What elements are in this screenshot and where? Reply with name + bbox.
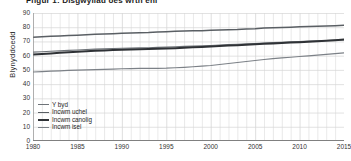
y-tick-label: 30 — [14, 95, 30, 102]
y-tick-label: 70 — [14, 38, 30, 45]
legend-color-swatch — [38, 104, 49, 105]
legend-item-label: Y byd — [52, 102, 68, 108]
x-tick-label: 2005 — [248, 143, 262, 150]
x-tick-label: 1985 — [70, 143, 84, 150]
legend-color-swatch — [38, 127, 49, 128]
x-tick-label: 1980 — [26, 143, 40, 150]
y-tick-label: 20 — [14, 109, 30, 116]
y-tick-label: 90 — [14, 10, 30, 17]
x-tick-label: 2000 — [203, 143, 217, 150]
y-axis-ticks: 0102030405060708090 — [12, 0, 30, 161]
series-line — [33, 25, 344, 37]
y-tick-label: 80 — [14, 24, 30, 31]
y-tick-label: 10 — [14, 124, 30, 131]
legend-item[interactable]: Incwm isel — [38, 124, 112, 132]
legend-item-label: Incwm isel — [52, 124, 81, 130]
x-tick-label: 2010 — [292, 143, 306, 150]
chart-legend: Y bydIncwm uchelIncwm canoligIncwm isel — [38, 101, 112, 131]
y-tick-label: 40 — [14, 81, 30, 88]
chart-title: Ffigur 1: Disgwyliad oes wrth eni — [26, 0, 276, 5]
x-axis-ticks: 19801985199019952000200520102015 — [0, 143, 350, 155]
legend-item-label: Incwm canolig — [52, 117, 92, 123]
y-tick-label: 50 — [14, 67, 30, 74]
y-tick-label: 60 — [14, 52, 30, 59]
data-series-group — [33, 25, 344, 72]
legend-color-swatch — [38, 119, 49, 121]
x-tick-label: 1990 — [115, 143, 129, 150]
x-tick-label: 2015 — [337, 143, 351, 150]
legend-item-label: Incwm uchel — [52, 109, 87, 115]
legend-color-swatch — [38, 112, 49, 114]
x-tick-label: 1995 — [159, 143, 173, 150]
